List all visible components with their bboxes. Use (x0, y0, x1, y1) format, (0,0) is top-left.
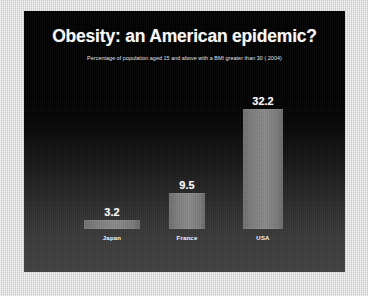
bar-usa (243, 109, 283, 229)
bar-label-usa: USA (217, 235, 309, 241)
bar-group-japan: 3.2 Japan (84, 220, 140, 229)
scanned-page-background: Obesity: an American epidemic? Percentag… (0, 0, 368, 296)
bar-value-usa: 32.2 (219, 95, 307, 107)
bar-japan (84, 220, 140, 229)
bar-group-usa: 32.2 USA (243, 109, 283, 229)
bar-value-france: 9.5 (145, 179, 229, 191)
presentation-slide: Obesity: an American epidemic? Percentag… (24, 11, 345, 272)
bar-france (169, 193, 205, 229)
bar-group-france: 9.5 France (169, 193, 205, 229)
bar-chart: 3.2 Japan 9.5 France 32.2 USA (24, 11, 345, 272)
bar-value-japan: 3.2 (60, 206, 164, 218)
